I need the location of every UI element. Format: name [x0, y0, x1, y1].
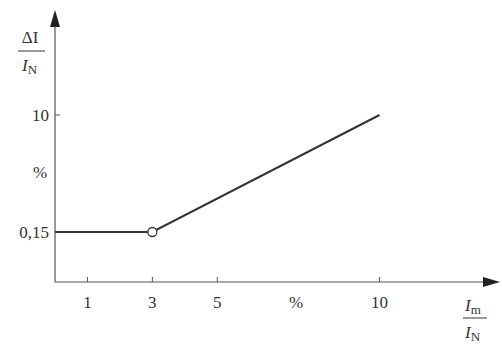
x-tick-label: 3 — [148, 293, 157, 312]
y-title-numerator: ΔI — [22, 28, 39, 47]
y-title-denominator: IN — [21, 56, 38, 77]
x-tick-label: 5 — [213, 293, 222, 312]
x-axis-arrow — [483, 277, 500, 287]
y-tick-label: 10 — [32, 106, 49, 125]
x-tick-label: 10 — [371, 293, 388, 312]
x-title-numerator: Im — [464, 296, 481, 317]
y-tick-label: 0,15 — [19, 223, 49, 242]
chart: 13510 0,1510 % % ΔI IN Im IN — [0, 0, 502, 352]
y-axis-arrow — [50, 10, 60, 27]
open-circle-marker — [148, 228, 157, 237]
y-unit-label: % — [33, 163, 47, 182]
x-title-denominator: IN — [464, 323, 481, 344]
x-unit-label: % — [289, 293, 303, 312]
x-tick-label: 1 — [83, 293, 92, 312]
series-line — [55, 115, 380, 232]
x-axis-title: Im IN — [463, 296, 487, 344]
y-axis-title: ΔI IN — [18, 28, 45, 77]
